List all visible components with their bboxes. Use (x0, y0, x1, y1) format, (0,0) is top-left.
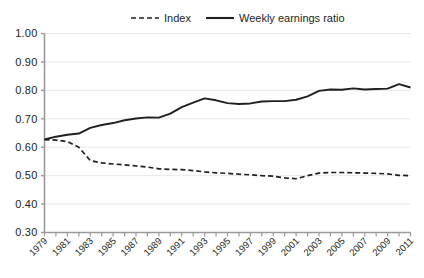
y-tick-label: 0.80 (15, 84, 37, 96)
y-tick-label: 0.50 (15, 169, 37, 181)
y-tick-label: 1.00 (15, 27, 37, 39)
y-tick-label: 0.30 (15, 226, 37, 238)
y-tick-label: 0.60 (15, 141, 37, 153)
y-tick-label: 0.90 (15, 56, 37, 68)
legend-label-weekly-earnings-ratio: Weekly earnings ratio (239, 12, 345, 24)
y-tick-label: 0.40 (15, 198, 37, 210)
y-tick-label: 0.70 (15, 113, 37, 125)
line-chart: 1.000.900.800.700.600.500.400.30 1979198… (0, 0, 424, 278)
chart-container: 1.000.900.800.700.600.500.400.30 1979198… (0, 0, 424, 278)
legend-label-index: Index (164, 12, 191, 24)
